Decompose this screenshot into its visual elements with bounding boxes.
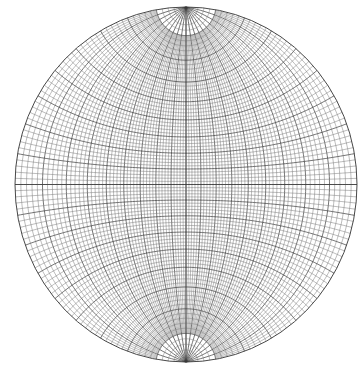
wulff-net-svg	[0, 0, 362, 377]
small-circles	[15, 7, 357, 362]
stereonet-diagram	[0, 0, 362, 377]
